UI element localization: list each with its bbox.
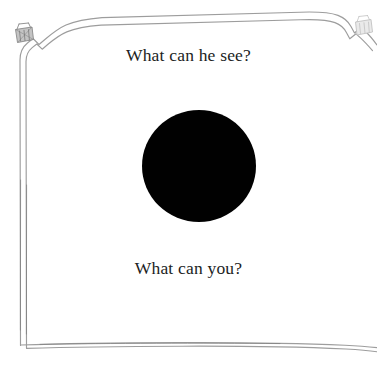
caption-bottom: What can you?	[0, 258, 377, 279]
black-circle-illustration	[142, 110, 256, 222]
caption-top: What can he see?	[0, 45, 377, 66]
book-page: What can he see? What can you?	[0, 0, 377, 367]
basket-icon	[352, 14, 377, 39]
basket-icon	[11, 22, 37, 46]
